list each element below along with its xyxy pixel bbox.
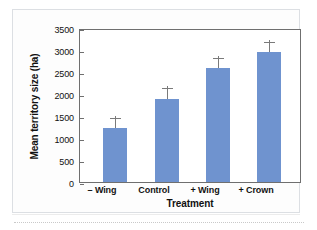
y-tick-label-3500: 3500: [54, 25, 74, 35]
y-axis-title-label: Mean territory size (ha): [30, 53, 41, 159]
x-tick-label-minus-wing: – Wing: [88, 185, 117, 195]
y-tick-label-2500: 2500: [54, 69, 74, 79]
y-tick-label-2000: 2000: [54, 91, 74, 101]
y-tick-1000: [80, 140, 84, 141]
plot-frame: 0 500 1000 1500 2000 2500 3000 3500: [79, 29, 301, 183]
bar-plus-crown: [257, 52, 281, 182]
y-tick-label-0: 0: [69, 179, 74, 189]
y-tick-1500: [80, 118, 84, 119]
bar-control: [155, 99, 179, 182]
x-tick-label-plus-crown: + Crown: [238, 185, 273, 195]
y-tick-label-1000: 1000: [54, 135, 74, 145]
bar-plus-wing: [206, 68, 230, 182]
y-tick-500: [80, 162, 84, 163]
y-tick-3000: [80, 52, 84, 53]
y-tick-label-3000: 3000: [54, 47, 74, 57]
panel-bottom-edge: [12, 214, 300, 215]
error-cap-plus-crown: [264, 42, 275, 43]
error-cap-control: [162, 88, 173, 89]
y-axis-title: Mean territory size (ha): [27, 29, 43, 183]
figure-container: Mean territory size (ha) 0 500 1000 1500…: [0, 0, 317, 230]
x-tick-label-control: Control: [138, 185, 169, 195]
y-tick-2000: [80, 96, 84, 97]
x-axis-title: Treatment: [79, 198, 301, 209]
y-tick-label-500: 500: [59, 157, 74, 167]
bottom-dotted-rule: [14, 222, 304, 223]
x-tick-label-plus-wing: + Wing: [190, 185, 219, 195]
error-cap-minus-wing: [110, 118, 121, 119]
y-tick-0: [80, 184, 84, 185]
figure-panel: Mean territory size (ha) 0 500 1000 1500…: [12, 9, 300, 213]
plot-area: 0 500 1000 1500 2000 2500 3000 3500: [80, 30, 300, 182]
error-cap-plus-wing: [213, 58, 224, 59]
y-tick-2500: [80, 74, 84, 75]
bar-minus-wing: [103, 128, 127, 182]
y-tick-label-1500: 1500: [54, 113, 74, 123]
y-tick-3500: [80, 30, 84, 31]
